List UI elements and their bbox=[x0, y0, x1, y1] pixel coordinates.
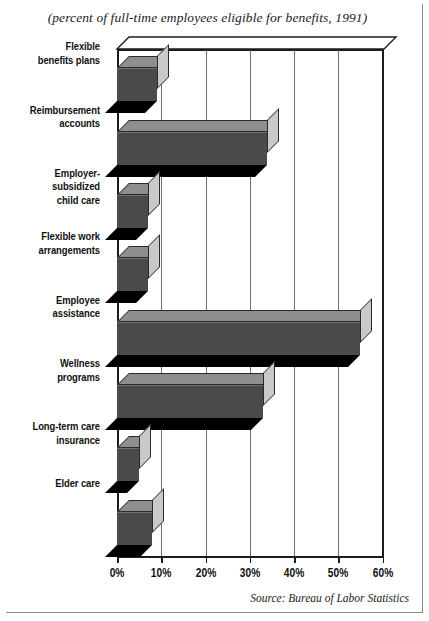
chart-subtitle: (percent of full-time employees eligible… bbox=[0, 10, 415, 26]
bar-front-face bbox=[117, 448, 139, 481]
bar-shadow bbox=[105, 355, 360, 367]
x-axis-tick-label: 30% bbox=[233, 566, 267, 580]
bar bbox=[117, 132, 267, 165]
bar-shadow bbox=[105, 418, 263, 430]
plot-right-border bbox=[382, 49, 384, 557]
category-label: Elder care bbox=[15, 477, 100, 491]
x-axis-tick-label: 0% bbox=[100, 566, 134, 580]
bar bbox=[117, 512, 152, 545]
x-axis-tick bbox=[383, 557, 385, 563]
bar-top-face bbox=[117, 310, 372, 322]
bar-top-face bbox=[117, 373, 275, 385]
bar-front-face bbox=[117, 322, 360, 355]
bar-front-face bbox=[117, 132, 267, 165]
bar bbox=[117, 258, 148, 291]
source-note: Source: Bureau of Labor Statistics bbox=[250, 592, 409, 604]
x-axis-tick-label: 50% bbox=[321, 566, 355, 580]
bar bbox=[117, 385, 263, 418]
bar-shadow bbox=[105, 165, 267, 177]
bar-top-face bbox=[117, 120, 279, 132]
category-label: Wellnessprograms bbox=[15, 357, 100, 384]
bar bbox=[117, 68, 157, 101]
x-axis-tick-label: 60% bbox=[366, 566, 400, 580]
category-label-line2: accounts bbox=[15, 117, 100, 131]
bar bbox=[117, 448, 139, 481]
category-label: Long-term careinsurance bbox=[15, 420, 100, 447]
page-rule-right bbox=[422, 4, 423, 613]
x-axis-tick bbox=[161, 557, 163, 563]
category-label: Flexiblebenefits plans bbox=[15, 40, 100, 67]
category-label-line1: Flexible work bbox=[15, 230, 100, 244]
category-label-line2: assistance bbox=[15, 307, 100, 321]
category-label-line2: arrangements bbox=[15, 244, 100, 258]
bar-front-face bbox=[117, 195, 148, 228]
category-label-line2: child care bbox=[15, 194, 100, 208]
category-label: Employeeassistance bbox=[15, 294, 100, 321]
category-label: Employer-subsidizedchild care bbox=[15, 167, 100, 208]
category-label-line1: Wellness bbox=[15, 357, 100, 371]
x-axis-tick-label: 20% bbox=[189, 566, 223, 580]
x-axis-tick bbox=[250, 557, 252, 563]
category-label-line2: programs bbox=[15, 371, 100, 385]
category-label-line1: Employer-subsidized bbox=[15, 167, 100, 194]
x-axis-tick-label: 40% bbox=[277, 566, 311, 580]
category-label-line1: Flexible bbox=[15, 40, 100, 54]
x-axis-tick bbox=[206, 557, 208, 563]
gridline bbox=[338, 50, 339, 556]
bar-front-face bbox=[117, 258, 148, 291]
bar-front-face bbox=[117, 385, 263, 418]
category-label-line1: Long-term care bbox=[15, 420, 100, 434]
category-axis-labels: Flexiblebenefits plansReimbursementaccou… bbox=[0, 28, 108, 528]
chart-page: (percent of full-time employees eligible… bbox=[0, 0, 429, 621]
x-axis-tick bbox=[294, 557, 296, 563]
category-label-line1: Elder care bbox=[15, 477, 100, 491]
bar-front-face bbox=[117, 512, 152, 545]
bar bbox=[117, 195, 148, 228]
gridline bbox=[294, 50, 295, 556]
category-label-line2: benefits plans bbox=[15, 54, 100, 68]
category-label-line1: Employee bbox=[15, 294, 100, 308]
category-label-line1: Reimbursement bbox=[15, 104, 100, 118]
x-axis-tick bbox=[338, 557, 340, 563]
x-axis-tick bbox=[117, 557, 119, 563]
page-rule-bottom bbox=[6, 612, 423, 613]
bar-front-face bbox=[117, 68, 157, 101]
category-label-line2: insurance bbox=[15, 434, 100, 448]
category-label: Reimbursementaccounts bbox=[15, 104, 100, 131]
bar bbox=[117, 322, 360, 355]
category-label: Flexible workarrangements bbox=[15, 230, 100, 257]
x-axis-tick-label: 10% bbox=[144, 566, 178, 580]
bar-chart: Flexiblebenefits plansReimbursementaccou… bbox=[0, 28, 429, 548]
